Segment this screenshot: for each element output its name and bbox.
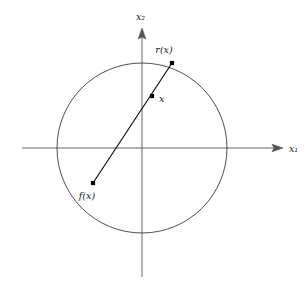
point-marker-x [150,94,154,98]
point-label-x: x [159,93,165,104]
point-label-f-of-x: f(x) [78,190,96,201]
canvas-background [0,0,307,285]
x2-axis-label: x₂ [136,11,145,22]
retraction-diagram: x₁ x₂ r(x) x f(x) [0,0,307,285]
point-marker-r-of-x [170,61,174,65]
x1-axis-label: x₁ [289,143,298,154]
point-label-r-of-x: r(x) [155,44,173,55]
diagram-canvas: x₁ x₂ r(x) x f(x) [0,0,307,285]
point-marker-f-of-x [91,181,95,185]
